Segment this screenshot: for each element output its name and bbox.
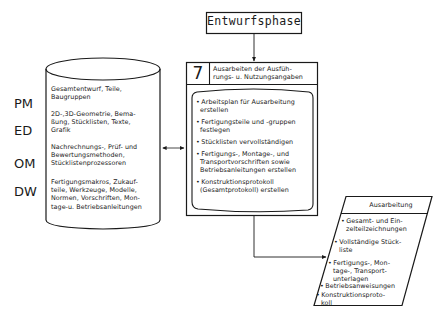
layer-pm-text: Gesamtentwurf, Teile, Baugruppen	[51, 85, 122, 101]
step-title: Ausarbeiten der Ausfüh- rungs- u. Nutzun…	[213, 65, 303, 81]
layer-code-dw: DW	[14, 184, 37, 199]
phase-title: Entwurfsphase	[206, 14, 302, 28]
output-item: Betriebsanweisungen	[320, 282, 395, 290]
task-item: Konstruktionsprotokoll (Gesamtprotokoll)…	[196, 178, 296, 194]
output-item: Fertigungs-, Mon- tage-, Transport- unte…	[328, 259, 390, 284]
arrow-step-to-output	[254, 216, 326, 257]
output-item: Gesamt- und Ein- zelteilzeichnungen	[341, 217, 407, 233]
layer-code-ed: ED	[14, 123, 32, 138]
task-item: Fertigungsteile und -gruppen festlegen	[196, 118, 296, 134]
layer-code-pm: PM	[14, 96, 33, 111]
output-item: Vollständige Stück- liste	[334, 238, 401, 254]
task-item: Arbeitsplan für Ausarbeitung erstellen	[196, 98, 296, 114]
output-title: Ausarbeitung	[358, 201, 424, 209]
step-number: 7	[187, 63, 209, 83]
layer-ed-text: 2D-,3D-Geometrie, Bema- ßung, Stückliste…	[51, 110, 136, 135]
layer-om-text: Nachrechnungs-, Prüf- und Bewertungsmeth…	[51, 143, 137, 168]
output-item: Konstruktionsproto- koll	[316, 291, 385, 307]
layer-code-om: OM	[14, 156, 35, 171]
step-task-list: Arbeitsplan für Ausarbeitung erstellen F…	[196, 98, 296, 198]
layer-dw-text: Fertigungsmakros, Zukauf- teile, Werkzeu…	[51, 178, 142, 211]
task-item: Fertigungs-, Montage-, und Transportvors…	[196, 150, 296, 175]
task-item: Stücklisten vervollständigen	[196, 138, 296, 146]
